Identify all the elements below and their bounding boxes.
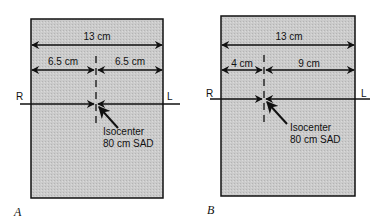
- panel-b: 13 cm 4 cm 9 cm R L Isocenter 80 cm SAD …: [206, 16, 370, 217]
- isocenter-label: Isocenter: [290, 122, 332, 133]
- isocenter-sad-label: 80 cm SAD: [290, 134, 341, 145]
- right-width-label: 9 cm: [298, 58, 320, 69]
- right-side-label: R: [16, 91, 23, 102]
- total-width-label: 13 cm: [83, 31, 110, 42]
- left-side-label: L: [167, 91, 173, 102]
- left-width-label: 6.5 cm: [48, 56, 78, 67]
- field-rectangle: [221, 16, 355, 196]
- panel-a: 13 cm 6.5 cm 6.5 cm R L Isocenter 80 cm …: [13, 19, 180, 219]
- left-width-label: 4 cm: [231, 58, 253, 69]
- isocenter-sad-label: 80 cm SAD: [103, 138, 154, 149]
- isocenter-label: Isocenter: [103, 126, 145, 137]
- total-width-label: 13 cm: [275, 31, 302, 42]
- diagram-canvas: 13 cm 6.5 cm 6.5 cm R L Isocenter 80 cm …: [0, 0, 392, 223]
- field-rectangle: [31, 19, 163, 198]
- right-width-label: 6.5 cm: [115, 56, 145, 67]
- panel-label-b: B: [207, 203, 215, 217]
- right-side-label: R: [206, 88, 213, 99]
- left-side-label: L: [361, 88, 367, 99]
- panel-label-a: A: [13, 205, 22, 219]
